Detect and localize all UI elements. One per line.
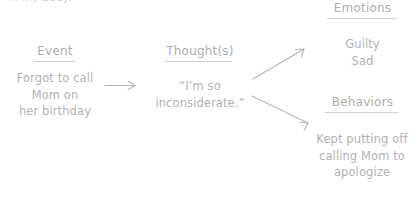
column-header-emotions-underline bbox=[327, 18, 397, 19]
column-header-behaviors: Behaviors bbox=[310, 95, 415, 109]
node-emotions-body: Guilty Sad bbox=[310, 36, 415, 69]
column-header-event-underline bbox=[34, 61, 76, 62]
column-header-thoughts: Thought(s) bbox=[150, 44, 250, 58]
column-header-behaviors-underline bbox=[325, 112, 399, 113]
node-thoughts-body: “I’m so inconsiderate.” bbox=[140, 78, 260, 111]
column-header-thoughts-underline bbox=[164, 61, 232, 62]
column-header-emotions-label: Emotions bbox=[334, 1, 391, 15]
column-header-thoughts-label: Thought(s) bbox=[166, 44, 233, 58]
cbt-thought-record-diagram: in my body. Event Forgot to call Mom on … bbox=[0, 0, 419, 204]
column-header-emotions: Emotions bbox=[310, 1, 415, 15]
node-event-body: Forgot to call Mom on her birthday bbox=[0, 70, 110, 120]
node-behaviors-body: Kept putting off calling Mom to apologiz… bbox=[305, 131, 419, 181]
column-header-behaviors-label: Behaviors bbox=[332, 95, 393, 109]
column-header-event-label: Event bbox=[37, 44, 72, 58]
thought-to-behaviors-arrow bbox=[252, 96, 308, 131]
column-header-event: Event bbox=[10, 44, 100, 58]
clipped-top-text: in my body. bbox=[8, 0, 158, 3]
thought-to-emotions-arrow bbox=[253, 49, 304, 79]
